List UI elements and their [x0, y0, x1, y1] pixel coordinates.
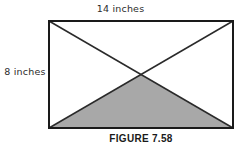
rectangle-diagonals-drawing: [0, 0, 241, 149]
shaded-lower-triangle: [49, 75, 233, 129]
figure-caption: FIGURE 7.58: [48, 133, 234, 144]
figure-container: 14 inches 8 inches FIGURE 7.58: [0, 0, 241, 149]
